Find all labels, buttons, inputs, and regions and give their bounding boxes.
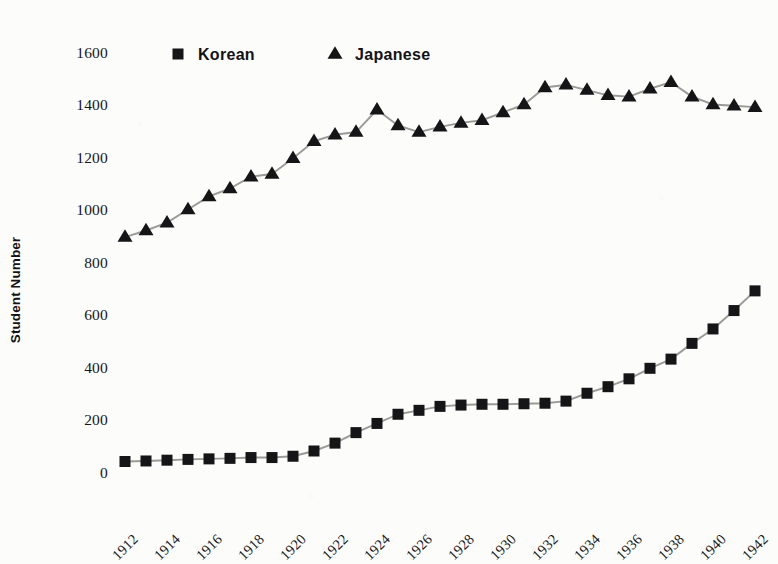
- data-point-marker: [183, 454, 194, 465]
- data-point-marker: [519, 398, 530, 409]
- data-point-marker: [708, 323, 719, 334]
- data-point-marker: [624, 373, 635, 384]
- data-point-marker: [645, 363, 656, 374]
- data-point-marker: [477, 399, 488, 410]
- data-point-marker: [435, 401, 446, 412]
- y-tick-label: 1600: [76, 44, 108, 61]
- data-point-marker: [582, 388, 593, 399]
- y-tick-label: 800: [84, 254, 108, 271]
- data-point-marker: [162, 455, 173, 466]
- data-point-marker: [267, 452, 278, 463]
- data-point-marker: [372, 418, 383, 429]
- data-point-marker: [540, 398, 551, 409]
- data-point-marker: [666, 354, 677, 365]
- data-point-marker: [414, 405, 425, 416]
- data-point-marker: [141, 455, 152, 466]
- legend-label: Korean: [198, 46, 255, 63]
- y-tick-label: 600: [84, 306, 108, 323]
- data-point-marker: [120, 456, 131, 467]
- chart-figure: 02004006008001000120014001600 1912191419…: [0, 0, 778, 564]
- student-number-line-chart: 02004006008001000120014001600 1912191419…: [0, 0, 778, 564]
- data-point-marker: [246, 452, 257, 463]
- data-point-marker: [750, 285, 761, 296]
- y-tick-label: 200: [84, 411, 108, 428]
- data-point-marker: [687, 338, 698, 349]
- y-tick-label: 1000: [76, 201, 108, 218]
- data-point-marker: [561, 396, 572, 407]
- y-tick-label: 400: [84, 359, 108, 376]
- y-tick-label: 0: [100, 464, 108, 481]
- data-point-marker: [225, 453, 236, 464]
- data-point-marker: [456, 400, 467, 411]
- data-point-marker: [393, 409, 404, 420]
- data-point-marker: [288, 451, 299, 462]
- data-point-marker: [603, 381, 614, 392]
- y-axis-title: Student Number: [8, 236, 23, 343]
- legend-label: Japanese: [355, 46, 430, 63]
- legend-square-icon: [173, 49, 184, 60]
- data-point-marker: [309, 446, 320, 457]
- data-point-marker: [204, 453, 215, 464]
- data-point-marker: [729, 305, 740, 316]
- y-tick-label: 1200: [76, 149, 108, 166]
- y-tick-label: 1400: [76, 96, 108, 113]
- data-point-marker: [498, 399, 509, 410]
- data-point-marker: [351, 427, 362, 438]
- data-point-marker: [330, 438, 341, 449]
